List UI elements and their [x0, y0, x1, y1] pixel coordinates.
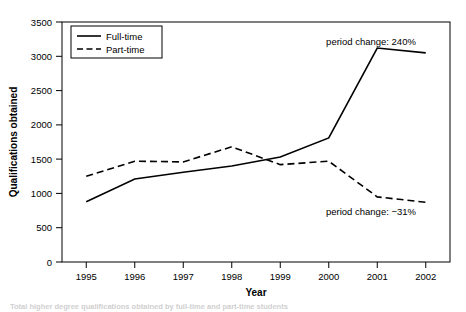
x-tick-label-1997: 1997	[173, 271, 194, 282]
x-tick-label-1995: 1995	[76, 271, 97, 282]
series-line-part-time	[86, 147, 426, 203]
annotation-part-time: period change: −31%	[326, 206, 417, 217]
y-axis-ticks	[56, 22, 62, 262]
annotation-full-time: period change: 240%	[326, 36, 416, 47]
y-tick-label-1000: 1000	[31, 188, 52, 199]
x-tick-label-1996: 1996	[124, 271, 145, 282]
figure-caption: Total higher degree qualifications obtai…	[10, 302, 288, 311]
x-tick-label-2001: 2001	[367, 271, 388, 282]
y-tick-label-1500: 1500	[31, 154, 52, 165]
legend-label-full-time: Full-time	[106, 31, 142, 42]
x-tick-label-2002: 2002	[415, 271, 436, 282]
y-tick-label-0: 0	[47, 257, 52, 268]
y-tick-label-2500: 2500	[31, 85, 52, 96]
y-axis-title: Qualifications obtained	[8, 87, 19, 198]
chart-legend: Full-time Part-time	[71, 26, 162, 58]
x-tick-label-2000: 2000	[318, 271, 339, 282]
x-tick-label-1999: 1999	[270, 271, 291, 282]
line-chart: 0 500 1000 1500 2000 2500 3000 3500 Qual…	[0, 0, 466, 312]
chart-figure: 0 500 1000 1500 2000 2500 3000 3500 Qual…	[0, 0, 466, 312]
series-line-full-time	[86, 48, 426, 202]
y-tick-label-2000: 2000	[31, 119, 52, 130]
y-tick-label-3500: 3500	[31, 17, 52, 28]
x-axis-ticks	[86, 262, 426, 268]
x-tick-label-1998: 1998	[221, 271, 242, 282]
y-tick-label-3000: 3000	[31, 51, 52, 62]
legend-label-part-time: Part-time	[106, 44, 145, 55]
y-tick-label-500: 500	[36, 222, 52, 233]
x-axis-title: Year	[245, 287, 266, 298]
